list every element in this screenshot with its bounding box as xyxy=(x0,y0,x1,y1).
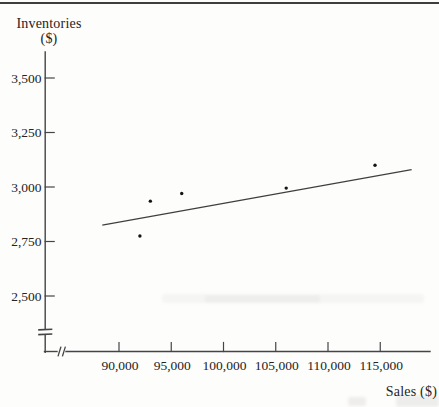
x-tick-label: 105,000 xyxy=(255,358,299,373)
trendline xyxy=(102,170,411,226)
y-axis-break-mark xyxy=(39,329,52,330)
data-point xyxy=(138,234,141,237)
x-tick-label: 110,000 xyxy=(307,358,351,373)
x-axis-break-mark xyxy=(63,347,66,356)
data-point xyxy=(373,164,376,167)
y-tick-label: 2,500 xyxy=(11,289,42,304)
y-tick-label: 2,750 xyxy=(11,234,42,249)
scatter-plot: 2,5002,7503,0003,2503,50090,00095,000100… xyxy=(0,0,439,407)
x-tick-label: 95,000 xyxy=(154,358,191,373)
y-tick-label: 3,250 xyxy=(11,125,42,140)
figure-scatter-inventories-vs-sales: Inventories ($) 2,5002,7503,0003,2503,50… xyxy=(0,0,439,407)
y-tick-label: 3,000 xyxy=(11,180,42,195)
y-axis-break-mark xyxy=(39,334,52,335)
scan-artifact xyxy=(396,395,439,407)
data-point xyxy=(285,186,288,189)
x-tick-label: 115,000 xyxy=(360,358,404,373)
x-tick-label: 90,000 xyxy=(101,358,138,373)
x-axis-break-mark xyxy=(58,347,61,356)
scan-artifact xyxy=(348,397,366,406)
x-tick-label: 100,000 xyxy=(203,358,247,373)
scan-artifact xyxy=(205,295,320,303)
y-tick-label: 3,500 xyxy=(11,71,42,86)
data-point xyxy=(149,199,152,202)
data-point xyxy=(180,192,183,195)
